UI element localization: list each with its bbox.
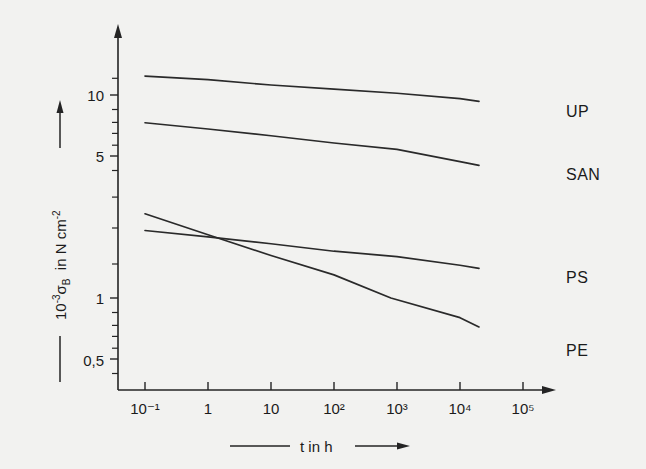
x-tick-label-1e2: 10²	[323, 400, 345, 417]
series-curves	[145, 76, 479, 327]
y-major-ticks	[110, 95, 118, 359]
y-axis-title: 10-3σB in N cm-2	[51, 210, 72, 320]
y-tick-label-0-5: 0,5	[83, 352, 104, 369]
x-tick-label-1e-1: 10⁻¹	[130, 400, 160, 417]
y-title-unit-exponent: -2	[51, 210, 62, 219]
x-tick-label-10: 10	[263, 400, 280, 417]
x-tick-label-1e5: 10⁵	[512, 400, 535, 417]
y-tick-labels: 10 5 1 0,5	[83, 87, 104, 369]
x-title-arrowhead	[397, 443, 410, 450]
y-title-base: 10	[52, 303, 69, 320]
x-axis	[118, 386, 556, 394]
x-tick-label-1e3: 10³	[386, 400, 408, 417]
x-tick-label-1e4: 10⁴	[448, 400, 471, 417]
y-title-arrowhead	[57, 100, 64, 113]
x-axis-title: t in h	[300, 438, 333, 455]
curve-PS	[145, 231, 479, 269]
curve-PE	[145, 214, 479, 327]
x-tick-label-1: 1	[204, 400, 212, 417]
series-label-san: SAN	[566, 166, 600, 183]
x-major-ticks	[145, 382, 523, 390]
x-axis-arrowhead	[542, 386, 556, 394]
y-title-in: in	[52, 258, 69, 270]
chart-container: 10 5 1 0,5 10⁻¹ 1 10 10² 10³ 10⁴ 10⁵ UP …	[0, 0, 646, 469]
curve-UP	[145, 76, 479, 101]
y-tick-label-10: 10	[87, 87, 104, 104]
x-tick-labels: 10⁻¹ 1 10 10² 10³ 10⁴ 10⁵	[130, 400, 534, 417]
y-axis-title-group: 10-3σB in N cm-2	[51, 100, 72, 382]
series-labels: UP SAN PS PE	[566, 103, 600, 359]
y-tick-label-1: 1	[96, 290, 104, 307]
y-title-unit: N cm	[52, 219, 69, 254]
y-title-connector	[52, 270, 69, 278]
series-label-pe: PE	[566, 342, 588, 359]
x-axis-title-group: t in h	[230, 438, 410, 455]
series-label-up: UP	[566, 103, 589, 120]
y-tick-label-5: 5	[96, 148, 104, 165]
y-minor-ticks	[112, 78, 118, 373]
series-label-ps: PS	[566, 269, 588, 286]
curve-SAN	[145, 123, 479, 166]
chart-svg: 10 5 1 0,5 10⁻¹ 1 10 10² 10³ 10⁴ 10⁵ UP …	[0, 0, 646, 469]
y-axis-arrowhead	[114, 24, 122, 38]
